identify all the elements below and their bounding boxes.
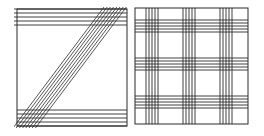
figure-canvas — [0, 0, 264, 136]
left-panel-diagonal-bands — [13, 7, 127, 128]
left-frame — [17, 9, 127, 126]
right-panel-plaid-grid — [135, 8, 248, 124]
